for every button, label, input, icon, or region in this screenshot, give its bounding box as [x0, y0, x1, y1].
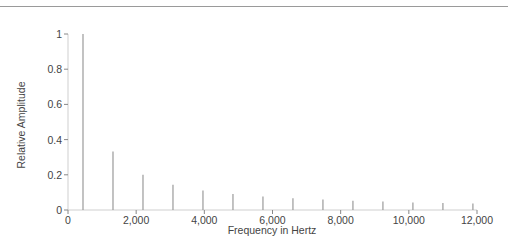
y-tick-label: 0.2	[47, 169, 62, 181]
y-tick-label: 0.4	[47, 134, 62, 146]
x-axis-title: Frequency in Hertz	[228, 224, 317, 236]
x-tick-label: 4,000	[191, 214, 217, 226]
y-axis-title: Relative Amplitude	[15, 81, 27, 168]
x-tick-label: 12,000	[461, 214, 493, 226]
x-tick-label: 0	[65, 214, 71, 226]
x-tick-label: 2,000	[123, 214, 149, 226]
harmonic-bars	[83, 34, 473, 210]
x-tick-label: 10,000	[393, 214, 425, 226]
y-axis: 00.20.40.60.81	[47, 28, 68, 216]
y-tick-label: 1	[56, 28, 62, 40]
frequency-spectrum-chart: 00.20.40.60.81 02,0004,0006,0008,00010,0…	[0, 0, 508, 243]
x-tick-label: 8,000	[328, 214, 354, 226]
y-tick-label: 0	[56, 204, 62, 216]
y-tick-label: 0.6	[47, 98, 62, 110]
y-tick-label: 0.8	[47, 63, 62, 75]
